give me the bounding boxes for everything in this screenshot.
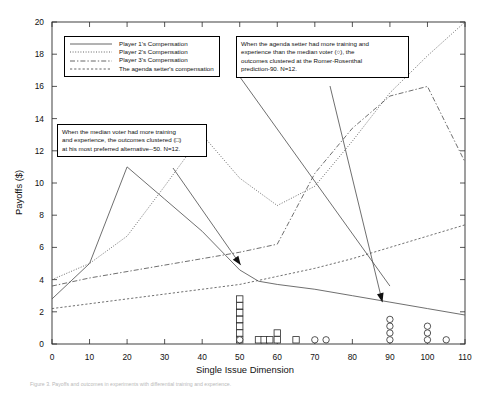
outcome-marker-square — [274, 330, 280, 336]
chart-legend: Player 1's CompensationPlayer 2's Compen… — [64, 36, 220, 77]
x-tick-label: 70 — [306, 352, 324, 362]
legend-label: Player 1's Compensation — [119, 40, 214, 48]
annotation-line: at his most preferred alternative--50. N… — [62, 145, 202, 153]
series-line-4 — [240, 77, 390, 286]
figure-caption: Figure 3. Payoffs and outcomes in experi… — [30, 381, 470, 388]
y-tick-label: 0 — [26, 339, 44, 349]
y-tick-label: 12 — [26, 146, 44, 156]
outcome-marker-square — [237, 323, 243, 329]
y-tick-label: 4 — [26, 275, 44, 285]
outcome-marker-square — [267, 337, 273, 343]
legend-item: Player 3's Compensation — [69, 56, 214, 64]
outcome-marker-circle — [312, 337, 318, 343]
x-tick-label: 20 — [118, 352, 136, 362]
annotation-median-voter: When the median voter had more traininga… — [57, 124, 207, 157]
annotation-arrow-agenda-setter — [330, 86, 382, 302]
y-tick-label: 10 — [26, 178, 44, 188]
outcome-marker-circle — [323, 337, 329, 343]
legend-label: Player 3's Compensation — [119, 56, 214, 64]
annotation-arrow-median-voter — [173, 168, 241, 265]
outcome-marker-square — [293, 337, 299, 343]
annotation-line: When the median voter had more training — [62, 128, 202, 136]
annotation-agenda-setter: When the agenda setter had more training… — [236, 36, 409, 78]
outcome-marker-circle — [387, 330, 393, 336]
outcome-marker-circle — [424, 330, 430, 336]
outcome-marker-circle — [387, 337, 393, 343]
y-tick-label: 20 — [26, 17, 44, 27]
outcome-marker-circle — [237, 337, 243, 343]
series-line-2 — [52, 86, 465, 286]
x-tick-label: 50 — [231, 352, 249, 362]
x-tick-label: 80 — [343, 352, 361, 362]
outcome-marker-square — [237, 296, 243, 302]
x-tick-label: 10 — [81, 352, 99, 362]
annotation-line: prediction-90. N=12. — [241, 65, 404, 73]
legend-swatch-dashdot — [69, 56, 119, 64]
outcome-marker-square — [237, 303, 243, 309]
y-tick-label: 14 — [26, 114, 44, 124]
y-tick-label: 6 — [26, 242, 44, 252]
outcome-marker-square — [237, 330, 243, 336]
series-line-0 — [52, 167, 465, 315]
outcome-marker-circle — [443, 337, 449, 343]
x-tick-label: 40 — [193, 352, 211, 362]
y-tick-label: 18 — [26, 49, 44, 59]
y-axis-title: Payoffs ($) — [13, 170, 24, 215]
outcome-marker-circle — [424, 337, 430, 343]
annotation-line: When the agenda setter had more training… — [241, 40, 404, 48]
annotation-line: experience than the median voter (○), th… — [241, 48, 404, 56]
legend-swatch-solid — [69, 40, 119, 48]
legend-item: Player 2's Compensation — [69, 48, 214, 56]
legend-item: The agenda setter's compensation — [69, 65, 214, 73]
legend-swatch-dotted — [69, 48, 119, 56]
y-tick-label: 2 — [26, 307, 44, 317]
figure-container: Payoffs ($) Single Issue Dimension Playe… — [0, 0, 483, 399]
outcome-marker-circle — [387, 316, 393, 322]
legend-swatch-dashed — [69, 65, 119, 73]
y-tick-label: 16 — [26, 81, 44, 91]
x-tick-label: 100 — [418, 352, 436, 362]
x-tick-label: 90 — [381, 352, 399, 362]
y-tick-label: 8 — [26, 210, 44, 220]
outcome-marker-circle — [424, 323, 430, 329]
outcome-marker-circle — [387, 323, 393, 329]
legend-item: Player 1's Compensation — [69, 40, 214, 48]
outcome-marker-square — [237, 316, 243, 322]
annotation-line: and experience, the outcomes clustered (… — [62, 136, 202, 144]
legend-label: The agenda setter's compensation — [119, 65, 214, 73]
x-tick-label: 110 — [456, 352, 474, 362]
annotation-line: outcomes clustered at the Romer-Rosentha… — [241, 57, 404, 65]
x-tick-label: 30 — [156, 352, 174, 362]
x-tick-label: 0 — [43, 352, 61, 362]
outcome-marker-square — [237, 309, 243, 315]
series-line-3 — [52, 225, 465, 309]
x-axis-title: Single Issue Dimension — [196, 364, 294, 375]
outcome-marker-square — [274, 337, 280, 343]
x-tick-label: 60 — [268, 352, 286, 362]
legend-label: Player 2's Compensation — [119, 48, 214, 56]
